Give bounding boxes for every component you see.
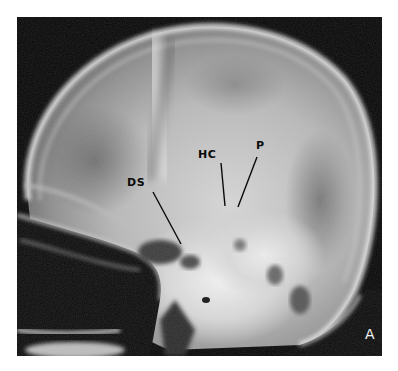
annotation-lines	[0, 0, 398, 371]
label-hc: HC	[198, 149, 216, 160]
p-leader-line	[238, 157, 257, 207]
label-p: P	[256, 140, 265, 151]
hc-leader-line	[221, 163, 225, 206]
label-ds: DS	[127, 177, 145, 188]
panel-letter: A	[365, 327, 375, 341]
ds-leader-line	[153, 192, 181, 244]
